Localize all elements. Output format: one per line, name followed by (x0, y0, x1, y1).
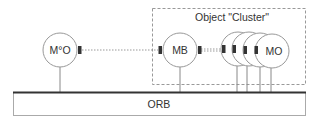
mb-port-left (159, 46, 163, 54)
mb-port-right (198, 46, 202, 54)
mo-label: MO (266, 45, 283, 57)
mb-label: MB (172, 44, 188, 56)
mo-port (255, 46, 259, 54)
cluster-objects[interactable]: MO (221, 32, 289, 68)
node-mo-star[interactable]: M°O (43, 33, 82, 67)
cluster-object-port-1 (222, 45, 226, 53)
orb-bus[interactable]: ORB (13, 93, 306, 116)
mo-star-label: M°O (49, 44, 70, 56)
cluster-object-port-2 (233, 45, 237, 53)
cluster-object-port-3 (244, 46, 248, 54)
diagram-canvas: Object "Cluster" M°O MB MO ORB (0, 0, 318, 123)
mo-star-port (78, 46, 82, 54)
node-mb[interactable]: MB (159, 33, 202, 67)
orb-label: ORB (148, 98, 171, 110)
cluster-label: Object "Cluster" (195, 11, 269, 23)
